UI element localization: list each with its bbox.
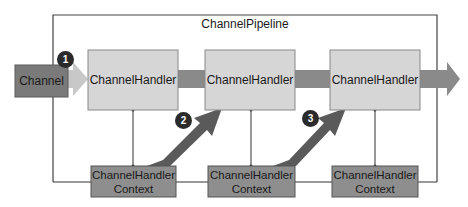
context-label-2-line1: ChannelHandler xyxy=(210,168,293,182)
context-label-1-line2: Context xyxy=(114,182,154,196)
flow-output-arrow xyxy=(420,62,460,96)
context-label-2: ChannelHandler Context xyxy=(208,167,295,197)
handler-label-2: ChannelHandler xyxy=(205,50,295,110)
context-label-2-line2: Context xyxy=(232,182,272,196)
handler-label-1: ChannelHandler xyxy=(88,50,178,110)
flow-segment-1-2 xyxy=(178,70,205,88)
context-label-1: ChannelHandler Context xyxy=(91,167,176,197)
handler-label-3: ChannelHandler xyxy=(330,50,420,110)
context-label-3-line1: ChannelHandler xyxy=(333,168,416,182)
context-label-3: ChannelHandler Context xyxy=(332,167,418,197)
pipeline-title: ChannelPipeline xyxy=(190,16,300,32)
channel-label: Channel xyxy=(15,65,68,97)
step-badge-2: 2 xyxy=(175,112,192,129)
channel-entry-arrow xyxy=(68,62,88,96)
context-label-3-line2: Context xyxy=(355,182,395,196)
context-label-1-line1: ChannelHandler xyxy=(92,168,175,182)
flow-segment-2-3 xyxy=(295,70,330,88)
step-badge-3: 3 xyxy=(302,110,319,127)
step-badge-1: 1 xyxy=(57,51,74,68)
